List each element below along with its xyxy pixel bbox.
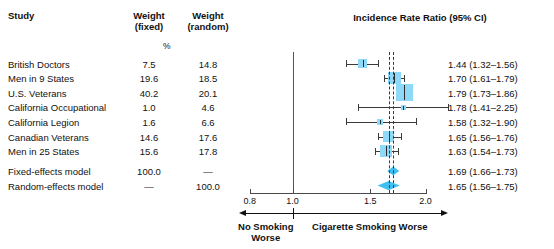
cell-weight-random: 14.8 xyxy=(182,59,234,70)
percent-symbol: % xyxy=(163,41,171,51)
cell-effect-estimate: 1.65 (1.56–1.76) xyxy=(448,132,552,143)
ci-cap-right xyxy=(378,60,379,67)
x-axis-tick xyxy=(426,189,427,194)
table-row-label: California Legion xyxy=(8,117,79,128)
column-header-weight-fixed-line2: (fixed) xyxy=(128,21,170,32)
right-direction-label: Cigarette Smoking Worse xyxy=(293,221,448,232)
table-row-label: California Occupational xyxy=(8,102,106,113)
cell-weight-random: 17.6 xyxy=(182,132,234,143)
cell-weight-random: 20.1 xyxy=(182,88,234,99)
ci-line xyxy=(346,64,378,65)
table-row-label: Canadian Veterans xyxy=(8,132,89,143)
ci-cap-left xyxy=(346,118,347,125)
ci-cap-right xyxy=(412,89,413,96)
table-row-label: Men in 25 States xyxy=(8,146,79,157)
summary-diamond xyxy=(387,166,399,175)
x-axis-line xyxy=(250,193,426,194)
cell-weight-fixed: 15.6 xyxy=(128,146,170,157)
column-header-weight-fixed-line1: Weight xyxy=(128,10,170,21)
ci-cap-left xyxy=(384,75,385,82)
weight-box xyxy=(358,59,367,68)
weight-box xyxy=(377,119,383,125)
x-axis-tick xyxy=(293,189,294,194)
weight-box xyxy=(380,145,392,157)
x-axis-tick-label: 0.8 xyxy=(234,196,266,206)
x-axis-tick xyxy=(250,189,251,194)
left-direction-label: No SmokingWorse xyxy=(231,221,301,243)
left-direction-label-line1: No Smoking xyxy=(231,221,301,232)
cell-weight-random: 4.6 xyxy=(182,102,234,113)
plot-title: Incidence Rate Ratio (95% CI) xyxy=(330,12,510,23)
x-axis-tick-label: 1.5 xyxy=(354,196,386,206)
point-estimate-marker xyxy=(380,120,381,124)
cell-effect-estimate: 1.79 (1.73–1.86) xyxy=(448,88,552,99)
cell-weight-fixed: 40.2 xyxy=(128,88,170,99)
cell-weight-fixed: 19.6 xyxy=(128,73,170,84)
right-arrowhead xyxy=(441,210,448,216)
weight-box xyxy=(383,131,394,142)
column-header-weight-fixed: Weight (fixed) xyxy=(128,10,170,32)
ci-line xyxy=(346,122,416,123)
ci-cap-right xyxy=(398,148,399,155)
ci-cap-left xyxy=(375,148,376,155)
cell-effect-estimate: 1.70 (1.61–1.79) xyxy=(448,73,552,84)
null-reference-line xyxy=(293,52,294,193)
cell-weight-fixed: — xyxy=(128,181,170,192)
cell-weight-fixed: 1.0 xyxy=(128,102,170,113)
x-axis-tick-label: 2.0 xyxy=(410,196,442,206)
table-row-label: U.S. Veterans xyxy=(8,88,67,99)
cell-weight-fixed: 1.6 xyxy=(128,117,170,128)
point-estimate-marker xyxy=(394,73,395,84)
weight-box xyxy=(396,84,413,101)
point-estimate-marker xyxy=(389,132,390,141)
summary-row-label: Fixed-effects model xyxy=(8,166,91,177)
point-estimate-marker xyxy=(363,60,364,67)
ci-cap-left xyxy=(378,133,379,140)
cell-weight-random: 18.5 xyxy=(182,73,234,84)
column-header-study: Study xyxy=(8,10,34,21)
ci-cap-left xyxy=(398,89,399,96)
cell-effect-estimate: 1.44 (1.32–1.56) xyxy=(448,59,552,70)
summary-reference-line-2 xyxy=(393,52,394,193)
weight-box xyxy=(401,105,406,110)
ci-line xyxy=(358,107,448,108)
cell-weight-random: 17.8 xyxy=(182,146,234,157)
cell-effect-estimate: 1.63 (1.54–1.73) xyxy=(448,146,552,157)
left-direction-label-line2: Worse xyxy=(231,232,301,243)
cell-weight-fixed: 100.0 xyxy=(128,166,170,177)
summary-reference-line-1 xyxy=(389,52,390,193)
ci-line xyxy=(375,151,397,152)
summary-diamond xyxy=(378,181,400,190)
ci-cap-left xyxy=(358,104,359,111)
column-header-weight-random-line2: (random) xyxy=(182,21,234,32)
table-row-label: Men in 9 States xyxy=(8,73,74,84)
ci-line xyxy=(398,93,412,94)
cell-effect-estimate: 1.78 (1.41–2.25) xyxy=(448,102,552,113)
summary-row-label: Random-effects model xyxy=(8,181,103,192)
ci-cap-right xyxy=(401,133,402,140)
cell-weight-random: — xyxy=(182,166,234,177)
column-header-weight-random: Weight (random) xyxy=(182,10,234,32)
x-axis-tick xyxy=(370,189,371,194)
left-arrowhead xyxy=(239,210,246,216)
weight-box xyxy=(388,72,401,85)
column-header-weight-random-line1: Weight xyxy=(182,10,234,21)
cell-effect-estimate: 1.69 (1.66–1.73) xyxy=(448,166,552,177)
ci-line xyxy=(384,78,404,79)
forest-plot-figure: Study Weight (fixed) Weight (random) Inc… xyxy=(0,0,554,249)
left-arrow-line xyxy=(245,213,293,214)
ci-cap-left xyxy=(346,60,347,67)
ci-cap-right xyxy=(416,118,417,125)
point-estimate-marker xyxy=(403,106,404,110)
point-estimate-marker xyxy=(386,146,387,156)
right-arrow-line xyxy=(293,213,442,214)
cell-effect-estimate: 1.58 (1.32–1.90) xyxy=(448,117,552,128)
point-estimate-marker xyxy=(404,85,405,100)
cell-effect-estimate: 1.65 (1.56–1.75) xyxy=(448,181,552,192)
x-axis-tick-label: 1.0 xyxy=(277,196,309,206)
cell-weight-random: 100.0 xyxy=(182,181,234,192)
cell-weight-fixed: 7.5 xyxy=(128,59,170,70)
cell-weight-random: 6.6 xyxy=(182,117,234,128)
ci-line xyxy=(378,137,401,138)
table-row-label: British Doctors xyxy=(8,59,70,70)
